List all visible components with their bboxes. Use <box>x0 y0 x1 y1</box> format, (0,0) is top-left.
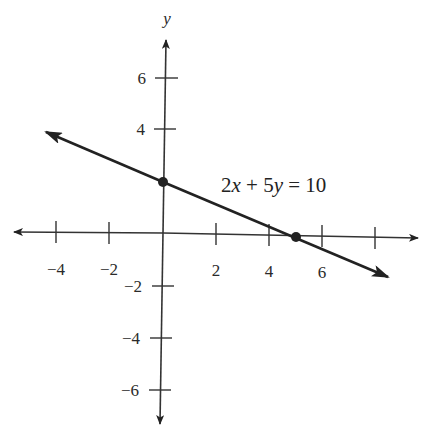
equation-label: 2x + 5y = 10 <box>221 173 326 197</box>
y-axis <box>163 40 166 233</box>
x-intercept-point <box>291 232 301 242</box>
svg-text:−2: −2 <box>100 260 118 279</box>
svg-text:−4: −4 <box>122 329 141 348</box>
x-tick-labels: −4 −2 2 4 6 <box>47 260 326 282</box>
svg-text:6: 6 <box>138 69 147 88</box>
svg-text:−6: −6 <box>121 381 139 400</box>
x-ticks <box>56 221 375 249</box>
coordinate-plane: −4 −2 2 4 6 6 4 −2 −4 −6 y 2x + 5y = 10 <box>0 0 432 427</box>
svg-text:−2: −2 <box>124 277 142 296</box>
y-tick-labels: 6 4 −2 −4 −6 <box>121 69 146 400</box>
svg-text:4: 4 <box>137 120 146 139</box>
y-intercept-point <box>158 177 168 187</box>
x-axis <box>14 232 163 233</box>
line-left <box>46 132 163 182</box>
y-axis-label: y <box>161 9 171 28</box>
svg-text:−4: −4 <box>47 260 66 279</box>
svg-text:4: 4 <box>265 262 274 281</box>
svg-text:6: 6 <box>318 263 327 282</box>
y-axis-negative <box>160 233 163 424</box>
svg-text:2: 2 <box>212 261 221 280</box>
